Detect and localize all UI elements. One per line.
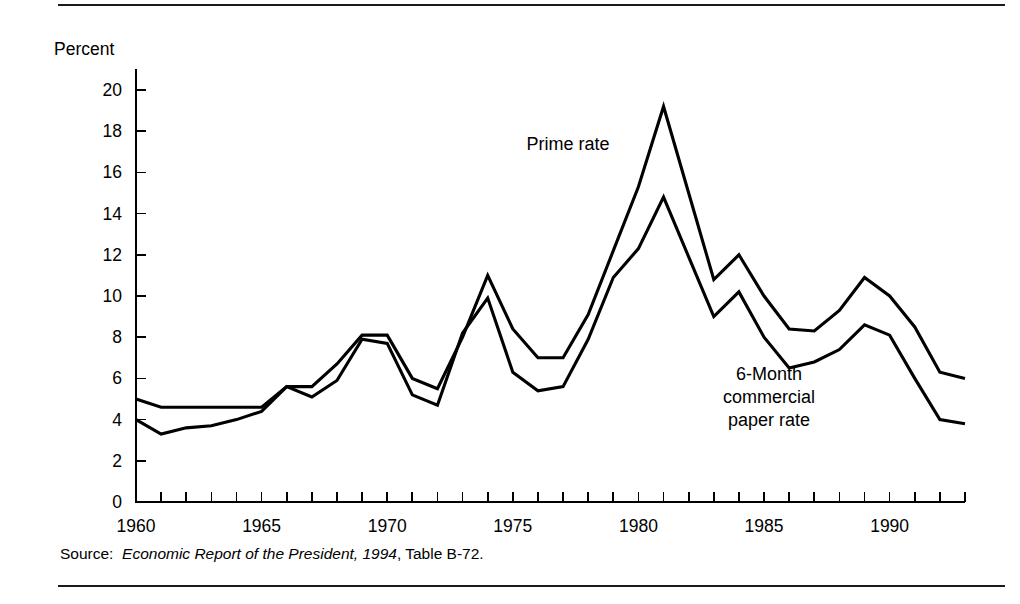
x-tick-label: 1960 <box>117 516 156 536</box>
annotation-line-1: 6-Month <box>736 364 802 384</box>
y-tick-label: 20 <box>103 80 123 100</box>
x-tick-label: 1990 <box>870 516 909 536</box>
series-line-2 <box>136 197 965 434</box>
y-axis-title: Percent <box>54 39 114 59</box>
source-note: Source: Economic Report of the President… <box>60 545 484 563</box>
y-tick-label: 18 <box>103 121 122 141</box>
y-tick-label: 4 <box>112 410 122 430</box>
y-tick-label: 10 <box>103 286 123 306</box>
bottom-divider-rule <box>58 585 1005 587</box>
x-tick-label: 1970 <box>368 516 407 536</box>
y-tick-label: 16 <box>103 162 122 182</box>
y-axis-tick-labels: 02468101214161820 <box>103 80 123 512</box>
figure-panel: 02468101214161820 1960196519701975198019… <box>0 0 1020 604</box>
annotation-line-3: paper rate <box>728 410 810 430</box>
x-tick-label: 1985 <box>745 516 784 536</box>
y-tick-label: 0 <box>112 492 122 512</box>
x-tick-label: 1980 <box>619 516 658 536</box>
top-divider-rule <box>58 4 1005 6</box>
y-tick-label: 6 <box>112 368 122 388</box>
x-axis-tick-labels: 1960196519701975198019851990 <box>117 516 910 536</box>
annotation-line-2: commercial <box>723 387 815 407</box>
source-label: Source: <box>60 545 113 562</box>
series-annotation-commercial-paper-rate: 6-Month commercial paper rate <box>723 364 815 430</box>
line-chart: 02468101214161820 1960196519701975198019… <box>0 0 1020 604</box>
x-tick-label: 1965 <box>242 516 281 536</box>
source-suffix: , Table B-72. <box>397 545 484 562</box>
series-annotation-prime-rate: Prime rate <box>527 134 610 154</box>
data-series-group <box>136 106 965 434</box>
y-tick-label: 14 <box>103 204 123 224</box>
x-tick-label: 1975 <box>493 516 532 536</box>
y-tick-label: 2 <box>112 451 122 471</box>
y-tick-label: 12 <box>103 245 122 265</box>
y-tick-label: 8 <box>112 327 122 347</box>
source-title: Economic Report of the President, 1994 <box>122 545 397 562</box>
